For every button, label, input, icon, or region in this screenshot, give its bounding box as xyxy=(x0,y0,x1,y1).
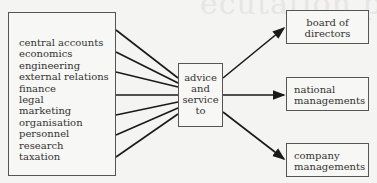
department-item: central accounts xyxy=(19,37,109,48)
center-line: and xyxy=(179,83,222,94)
department-item: taxation xyxy=(19,151,109,162)
department-item: personnel xyxy=(19,128,109,139)
center-line: to xyxy=(179,105,222,116)
department-item: marketing xyxy=(19,105,109,116)
department-item: external relations xyxy=(19,71,109,82)
target-line: managements xyxy=(294,95,368,106)
department-item: finance xyxy=(19,83,109,94)
department-item: economics xyxy=(19,48,109,59)
departments-list: central accounts economics engineering e… xyxy=(19,37,109,162)
center-line: advice xyxy=(179,72,222,83)
target-line: national xyxy=(294,84,368,95)
department-item: engineering xyxy=(19,60,109,71)
target-line: board of xyxy=(287,17,368,28)
department-item: organisation xyxy=(19,117,109,128)
center-line: service xyxy=(179,94,222,105)
department-item: legal xyxy=(19,94,109,105)
national-managements-box: national managements xyxy=(286,77,369,111)
target-line: company xyxy=(294,150,368,161)
departments-box: central accounts economics engineering e… xyxy=(8,12,116,176)
company-managements-box: company managements xyxy=(286,143,369,177)
target-line: directors xyxy=(287,28,368,39)
department-item: research xyxy=(19,140,109,151)
advice-service-box: advice and service to xyxy=(178,63,223,127)
board-of-directors-box: board of directors xyxy=(286,10,369,44)
target-line: managements xyxy=(294,161,368,172)
